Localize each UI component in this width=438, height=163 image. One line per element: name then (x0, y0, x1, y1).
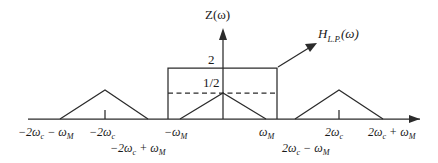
tick1-main: −2ω (89, 125, 112, 139)
gain-half-label: 1/2 (203, 76, 220, 89)
tick5-main: 2ω (282, 141, 296, 155)
filter-label-main: H (318, 26, 327, 41)
tick3-main: −ω (164, 125, 181, 139)
vertical-axis-arrowhead (219, 28, 227, 40)
filter-label-arg: (ω) (341, 26, 359, 41)
tick2-tail: + ω (136, 141, 159, 155)
filter-label-leader-line (278, 46, 312, 67)
left-replica-triangle (60, 90, 148, 119)
tick0-main: −2ω (18, 125, 41, 139)
tick-label-neg-2wc: −2ωc (89, 126, 115, 142)
tick7-tail-sub: M (409, 132, 416, 141)
tick7-tail: + ω (386, 125, 409, 139)
tick0-tail: − ω (44, 125, 67, 139)
gain-top-label: 2 (208, 53, 215, 66)
tick7-main: 2ω (368, 125, 382, 139)
tick4-sub: M (267, 132, 274, 141)
tick-label-pos-wM: ωM (259, 126, 274, 142)
tick2-tail-sub: M (159, 148, 166, 157)
tick-label-2wc-plus-wM: 2ωc + ωM (368, 126, 415, 142)
tick2-main: −2ω (110, 141, 133, 155)
tick-label-neg-wM: −ωM (164, 126, 187, 142)
tick5-tail: − ω (300, 141, 323, 155)
filter-label-arrowhead (305, 43, 317, 52)
tick3-sub: M (181, 132, 188, 141)
filter-label-sub: L.P. (327, 34, 341, 44)
tick-label-neg-2wc-plus-wM: −2ωc + ωM (110, 142, 166, 158)
tick-label-2wc: 2ωc (325, 126, 343, 142)
tick6-main: 2ω (325, 125, 339, 139)
figure-canvas: Z(ω) 2 1/2 HL.P.(ω) −2ωc − ωM −2ωc −2ωc … (0, 0, 438, 163)
tick0-tail-sub: M (67, 132, 74, 141)
vertical-axis-title: Z(ω) (205, 8, 230, 21)
tick-label-neg-2wc-minus-wM: −2ωc − ωM (18, 126, 74, 142)
tick5-tail-sub: M (323, 148, 330, 157)
horizontal-axis-arrowhead (409, 115, 420, 123)
tick6-sub: c (339, 132, 343, 141)
tick-label-2wc-minus-wM: 2ωc − ωM (282, 142, 329, 158)
filter-label: HL.P.(ω) (318, 27, 359, 43)
